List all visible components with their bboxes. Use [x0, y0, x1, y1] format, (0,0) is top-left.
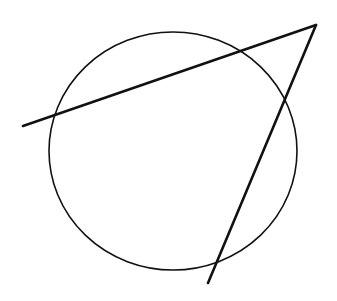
circle [49, 32, 297, 270]
diagram-canvas [0, 0, 337, 301]
geometry-figure [0, 0, 337, 301]
secant-line-2 [208, 25, 316, 283]
secant-line-1 [23, 25, 316, 126]
